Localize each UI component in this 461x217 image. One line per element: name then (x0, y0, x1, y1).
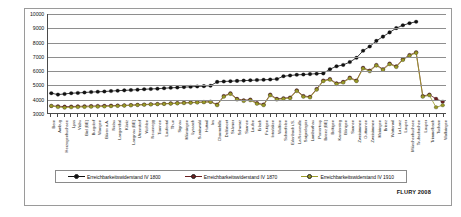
data-point (428, 94, 432, 98)
data-point (102, 105, 106, 109)
data-point (182, 101, 186, 105)
data-point (169, 86, 173, 90)
y-axis-tick-labels: 300040005000600070008000900010000 (24, 14, 46, 114)
legend-marker-icon (185, 174, 202, 180)
x-axis-label: Erlenbach i.S. (291, 120, 295, 145)
x-tick (389, 114, 390, 117)
data-point (136, 103, 140, 107)
x-tick (123, 114, 124, 117)
x-axis-label: Trimmelbach (431, 120, 435, 143)
x-tick (203, 114, 204, 117)
x-tick (197, 114, 198, 117)
data-point (414, 51, 418, 55)
data-point (169, 102, 173, 106)
x-axis-label: Visbu (78, 120, 82, 130)
x-tick (323, 114, 324, 117)
data-point (76, 91, 80, 95)
data-point (83, 91, 87, 95)
plot-area-wrapper: 300040005000600070008000900010000 (24, 14, 448, 119)
gridline-6000 (48, 71, 446, 72)
x-tick (64, 114, 65, 117)
x-axis-label: Münsingen (185, 120, 189, 140)
y-axis-tick-10000: 10000 (30, 12, 44, 17)
data-point (96, 90, 100, 94)
legend-item-1[interactable]: Erreichbarkeitswiderstand IV 1800 (68, 174, 161, 180)
legend-item-2[interactable]: Erreichbarkeitswiderstand IV 1870 (185, 174, 278, 180)
x-tick (50, 114, 51, 117)
data-point (229, 79, 233, 83)
x-tick (157, 114, 158, 117)
data-point (315, 72, 319, 76)
data-point (295, 73, 299, 77)
gridline-9000 (48, 28, 446, 29)
x-axis-ticks (47, 114, 446, 117)
x-axis-label: Wolfern (278, 120, 282, 134)
data-point (156, 87, 160, 91)
x-tick (296, 114, 297, 117)
y-axis-tick-8000: 8000 (33, 40, 44, 45)
data-point (401, 24, 405, 28)
data-point (421, 95, 425, 99)
data-point (388, 62, 392, 66)
data-point (229, 92, 233, 96)
x-tick (350, 114, 351, 117)
data-point (215, 103, 219, 107)
data-point (149, 103, 153, 107)
x-axis-label: Walkringen (444, 120, 448, 140)
data-point (149, 87, 153, 91)
x-axis-label: Köniz (125, 120, 129, 130)
data-point (441, 103, 445, 107)
x-axis-label: Ins (211, 120, 215, 125)
x-tick (443, 114, 444, 117)
x-tick (396, 114, 397, 117)
x-tick (330, 114, 331, 117)
x-tick (210, 114, 211, 117)
data-point (156, 102, 160, 106)
x-axis-category-labels: BernAmbugHerzogenbuchseeLyssVisbuBiel (B… (24, 120, 448, 164)
gridline-8000 (48, 43, 446, 44)
data-point (321, 72, 325, 76)
x-tick (97, 114, 98, 117)
chart-screenshot: 300040005000600070008000900010000 BernAm… (0, 0, 461, 217)
data-point (56, 93, 60, 97)
x-tick (256, 114, 257, 117)
data-point (122, 104, 126, 108)
x-axis-label: Kandersteg (338, 120, 342, 140)
x-axis-label: Interlaken (271, 120, 275, 137)
x-axis-label: Schwarz (238, 120, 242, 135)
x-tick (436, 114, 437, 117)
x-axis-label: Lyssach (191, 120, 195, 135)
legend-item-3[interactable]: Erreichbarkeitswiderstand IV 1910 (301, 174, 394, 180)
x-tick (163, 114, 164, 117)
x-axis-label: Saanen (245, 120, 249, 134)
x-axis-label: Erlach (258, 120, 262, 131)
x-axis-label: Langenthal (118, 120, 122, 140)
data-point (162, 102, 166, 106)
data-point (361, 67, 365, 71)
data-point (321, 79, 325, 83)
x-axis-label: Lamberthau (311, 120, 315, 141)
x-tick (84, 114, 85, 117)
data-point (348, 77, 352, 81)
x-axis-label: Huttwil (205, 120, 209, 132)
credit-attribution: FLURY 2008 (397, 189, 431, 195)
x-axis-label: Herzogenbuchsee (65, 120, 69, 152)
x-axis-label: Münchenbuchsee (411, 120, 415, 152)
data-point (49, 104, 53, 108)
data-point (209, 100, 213, 104)
x-tick (370, 114, 371, 117)
x-tick (90, 114, 91, 117)
x-axis-label: Brienz (BE) (324, 120, 328, 140)
x-axis-label: La Lanz (398, 120, 402, 134)
data-point (288, 74, 292, 78)
x-axis-label: Frutigen (265, 120, 269, 135)
data-point (328, 78, 332, 82)
chart-legend: Erreichbarkeitswiderstand IV 1800Erreich… (55, 170, 407, 183)
x-tick (270, 114, 271, 117)
x-axis-label: Charmebille (218, 120, 222, 141)
data-point (189, 101, 193, 105)
x-axis-label: Wohlen (145, 120, 149, 134)
data-point (248, 79, 252, 83)
data-point (222, 80, 226, 84)
legend-label: Erreichbarkeitswiderstand IV 1910 (320, 174, 394, 180)
